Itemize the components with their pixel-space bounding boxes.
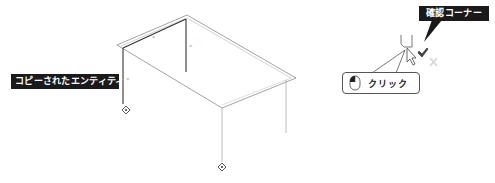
svg-text:=: = xyxy=(189,43,192,48)
copied-entities: = = = xyxy=(123,19,192,104)
svg-text:=: = xyxy=(152,34,155,39)
mouse-left-click-icon xyxy=(349,75,361,91)
copied-entities-label: コピーされたエンティティ xyxy=(11,74,119,89)
arrow-cursor-icon xyxy=(407,48,416,65)
drawing-canvas: = = = xyxy=(0,0,495,183)
corner-label-pointer xyxy=(424,20,442,42)
click-callout: クリック xyxy=(342,72,420,94)
svg-text:=: = xyxy=(126,76,129,81)
confirmation-corner[interactable] xyxy=(401,35,412,47)
grip-diamond-left[interactable] xyxy=(122,106,130,114)
click-bubble-pointer xyxy=(372,50,405,73)
table-top xyxy=(117,15,296,108)
confirmation-corner-label: 確認コーナー xyxy=(419,6,489,21)
click-label: クリック xyxy=(368,77,408,90)
grip-diamond-front[interactable] xyxy=(218,163,226,171)
checkmark-icon[interactable] xyxy=(418,48,428,57)
x-icon[interactable] xyxy=(430,58,437,66)
